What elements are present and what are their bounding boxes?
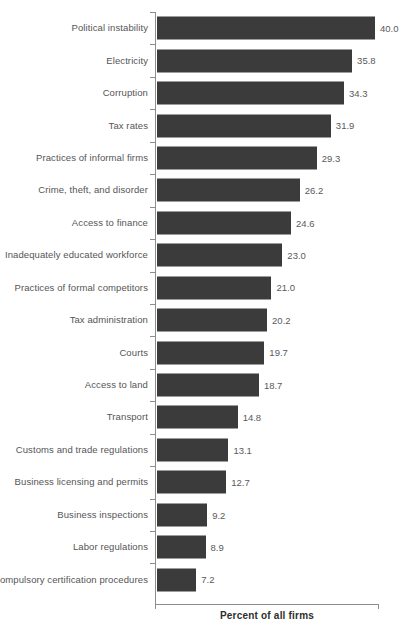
bar <box>157 406 238 429</box>
bar-group: 31.9 <box>157 114 354 137</box>
category-tick <box>150 304 156 305</box>
bar-value-label: 13.1 <box>233 445 252 455</box>
category-tick <box>150 336 156 337</box>
bar-group: 26.2 <box>157 179 323 202</box>
bar <box>157 146 317 169</box>
category-tick <box>150 207 156 208</box>
category-tick <box>150 401 156 402</box>
bar <box>157 49 352 72</box>
category-label: Business licensing and permits <box>15 478 148 488</box>
category-label: Crime, theft, and disorder <box>38 186 148 196</box>
bar-row: Compulsory certification procedures7.2 <box>0 563 404 595</box>
category-tick <box>150 272 156 273</box>
bar-row: Business licensing and permits12.7 <box>0 466 404 498</box>
bar-group: 14.8 <box>157 406 261 429</box>
bar-group: 34.3 <box>157 82 367 105</box>
bar-group: 12.7 <box>157 471 250 494</box>
bar-value-label: 14.8 <box>243 413 262 423</box>
category-label: Tax administration <box>70 315 148 325</box>
bar-group: 8.9 <box>157 536 224 559</box>
bar-row: Customs and trade regulations13.1 <box>0 434 404 466</box>
category-label: Electricity <box>106 56 148 66</box>
bar-group: 29.3 <box>157 146 340 169</box>
bar-group: 40.0 <box>157 17 399 40</box>
bar-value-label: 34.3 <box>349 88 368 98</box>
bar-value-label: 21.0 <box>276 283 295 293</box>
bar-group: 18.7 <box>157 374 282 397</box>
bar-row: Political instability40.0 <box>0 12 404 44</box>
bar <box>157 471 226 494</box>
x-axis-title: Percent of all firms <box>155 610 379 621</box>
bar-row: Access to finance24.6 <box>0 207 404 239</box>
bar-row: Tax rates31.9 <box>0 109 404 141</box>
bar-value-label: 20.2 <box>272 315 291 325</box>
bar-group: 35.8 <box>157 49 376 72</box>
bar <box>157 503 207 526</box>
bar-row: Electricity35.8 <box>0 44 404 76</box>
category-tick <box>150 466 156 467</box>
bar <box>157 276 271 299</box>
bar-value-label: 31.9 <box>336 121 355 131</box>
value-axis-tick-start <box>155 604 156 609</box>
category-label: Corruption <box>103 88 148 98</box>
bar-group: 7.2 <box>157 568 214 591</box>
bar <box>157 568 196 591</box>
category-label: Labor regulations <box>73 542 148 552</box>
bar <box>157 17 375 40</box>
value-axis-line <box>155 604 379 605</box>
bar <box>157 82 344 105</box>
bar-value-label: 24.6 <box>296 218 315 228</box>
bar-row: Business inspections9.2 <box>0 499 404 531</box>
category-label: Tax rates <box>109 121 148 131</box>
category-label: Inadequately educated workforce <box>5 251 148 261</box>
bar-row: Inadequately educated workforce23.0 <box>0 239 404 271</box>
category-tick <box>150 44 156 45</box>
category-label: Customs and trade regulations <box>16 445 148 455</box>
bar-row: Corruption34.3 <box>0 77 404 109</box>
bar-group: 19.7 <box>157 341 288 364</box>
bar <box>157 211 291 234</box>
bar-row: Practices of informal firms29.3 <box>0 142 404 174</box>
bar <box>157 438 228 461</box>
category-label: Access to finance <box>72 218 148 228</box>
bar-row: Transport14.8 <box>0 401 404 433</box>
bar-row: Practices of formal competitors21.0 <box>0 272 404 304</box>
category-label: Courts <box>119 348 148 358</box>
category-tick <box>150 142 156 143</box>
bar-row: Tax administration20.2 <box>0 304 404 336</box>
category-label: Practices of formal competitors <box>14 283 148 293</box>
bar-value-label: 40.0 <box>380 23 399 33</box>
category-tick <box>150 239 156 240</box>
bar-value-label: 8.9 <box>211 542 224 552</box>
bar-group: 9.2 <box>157 503 225 526</box>
category-tick <box>150 109 156 110</box>
category-tick <box>150 77 156 78</box>
bar-value-label: 29.3 <box>322 153 341 163</box>
bar-rows: Political instability40.0Electricity35.8… <box>0 12 404 596</box>
plot-area: Political instability40.0Electricity35.8… <box>0 0 404 628</box>
bar <box>157 536 206 559</box>
bar-row: Access to land18.7 <box>0 369 404 401</box>
category-label: Access to land <box>85 380 148 390</box>
category-label: Business inspections <box>57 510 148 520</box>
bar-group: 24.6 <box>157 211 315 234</box>
bar-value-label: 12.7 <box>231 478 250 488</box>
value-axis-tick-end <box>378 604 379 609</box>
category-tick <box>150 434 156 435</box>
category-tick <box>150 369 156 370</box>
bar-group: 20.2 <box>157 309 291 332</box>
bar-row: Courts19.7 <box>0 336 404 368</box>
bar-group: 21.0 <box>157 276 295 299</box>
bar-value-label: 18.7 <box>264 380 283 390</box>
bar <box>157 309 267 332</box>
bar-group: 23.0 <box>157 244 306 267</box>
bar-row: Crime, theft, and disorder26.2 <box>0 174 404 206</box>
bar <box>157 341 264 364</box>
category-label: Compulsory certification procedures <box>0 575 148 585</box>
category-tick <box>150 563 156 564</box>
bar <box>157 179 300 202</box>
bar-row: Labor regulations8.9 <box>0 531 404 563</box>
bar-value-label: 23.0 <box>287 251 306 261</box>
category-label: Political instability <box>71 23 148 33</box>
bar-value-label: 7.2 <box>201 575 214 585</box>
